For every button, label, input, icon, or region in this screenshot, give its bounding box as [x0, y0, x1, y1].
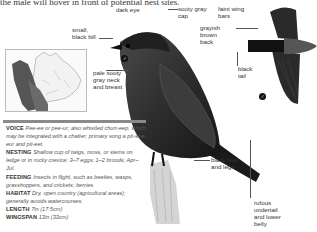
leader-line	[99, 38, 113, 39]
label-grayish-brown-back: grayish brown back	[200, 24, 228, 45]
leader-line	[194, 160, 210, 161]
male-female-symbol-icon: ♂	[259, 93, 266, 100]
leader-line	[106, 70, 128, 71]
range-map	[5, 49, 87, 112]
label-sooty-gray-cap: sooty gray cap	[178, 5, 208, 19]
leader-line	[236, 28, 258, 29]
male-female-symbol-icon: ♂	[121, 55, 128, 62]
canada-map-icon	[6, 50, 86, 111]
species-facts: VOICE Pee-ee or pee-ur; also whistled ch…	[6, 124, 146, 221]
fact-nesting: NESTING Shallow cup of twigs, moss, or s…	[6, 148, 146, 172]
fact-feeding: FEEDING Insects in flight, such as beetl…	[6, 173, 146, 189]
fact-habitat: HABITAT Dry, open country (agricultural …	[6, 189, 146, 205]
label-dark-eye: dark eye	[116, 6, 140, 13]
label-rufous-undertail: rufous undertail and lower belly	[254, 199, 288, 227]
label-black-feet-legs: black feet and legs	[211, 156, 243, 170]
leader-line	[250, 140, 251, 198]
flying-bird-illustration	[248, 4, 317, 104]
section-divider	[3, 120, 146, 123]
fact-voice: VOICE Pee-ee or pee-ur; also whistled ch…	[6, 124, 146, 148]
fact-wingspan: WINGSPAN 13in (33cm)	[6, 213, 146, 221]
leader-line	[168, 9, 178, 10]
leader-line	[237, 52, 238, 66]
label-faint-wing-bars: faint wing bars	[218, 5, 248, 19]
label-black-tail: black tail	[238, 65, 258, 79]
fact-length: LENGTH 7in (17.5cm)	[6, 205, 146, 213]
label-pale-neck-breast: pale sooty gray neck and breast	[93, 69, 123, 90]
